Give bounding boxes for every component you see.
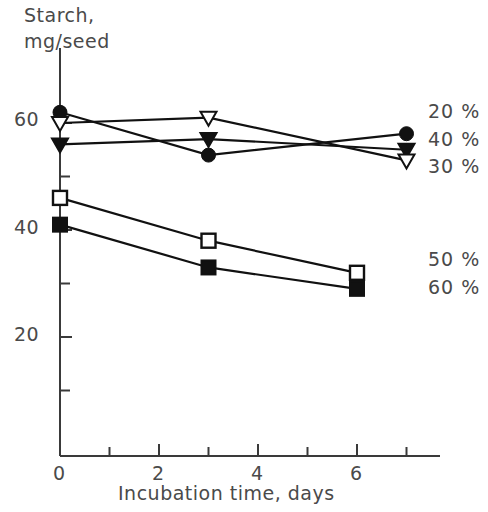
series-lines	[60, 112, 407, 289]
legend-label-20pct: 20 %	[428, 100, 480, 122]
x-axis-ticks	[60, 444, 407, 456]
x-tick-label-0: 0	[53, 462, 66, 484]
y-tick-label-60: 60	[14, 108, 39, 130]
x-tick-label-4: 4	[251, 462, 264, 484]
starch-incubation-chart: Starch, mg/seed Incubation time, days 60…	[0, 0, 488, 512]
y-axis-title-line1: Starch,	[24, 4, 95, 26]
marker-open-square-3-1	[202, 234, 216, 248]
marker-open-triangle-down-2-2	[399, 154, 415, 168]
y-axis-ticks	[60, 123, 72, 391]
legend-label-60pct: 60 %	[428, 276, 480, 298]
chart-plot-area	[0, 0, 488, 512]
y-tick-label-40: 40	[14, 216, 39, 238]
legend-label-30pct: 30 %	[428, 155, 480, 177]
legend-label-40pct: 40 %	[428, 128, 480, 150]
axis-lines	[60, 48, 440, 456]
marker-filled-circle-0-1	[202, 148, 216, 162]
marker-open-square-3-0	[53, 191, 67, 205]
marker-open-square-3-2	[350, 266, 364, 280]
x-tick-label-6: 6	[350, 462, 363, 484]
marker-filled-square-4-2	[350, 282, 364, 296]
x-tick-label-2: 2	[152, 462, 165, 484]
series-markers	[52, 105, 415, 296]
marker-filled-square-4-0	[53, 218, 67, 232]
marker-filled-triangle-down-1-0	[52, 138, 68, 152]
marker-filled-square-4-1	[202, 260, 216, 274]
y-tick-label-20: 20	[14, 323, 39, 345]
x-axis-title: Incubation time, days	[118, 482, 335, 504]
marker-filled-circle-0-2	[400, 127, 414, 141]
legend-label-50pct: 50 %	[428, 248, 480, 270]
y-axis-title-line2: mg/seed	[24, 30, 110, 52]
